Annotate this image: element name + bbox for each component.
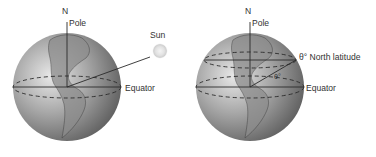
theta-angle-label: θ°: [274, 72, 281, 81]
equator-label-left: Equator: [125, 82, 155, 93]
right-globe: [196, 22, 304, 141]
north-label-right: N: [245, 5, 251, 16]
diagram-canvas: [0, 0, 376, 157]
pole-label-right: Pole: [252, 17, 269, 28]
sun-label: Sun: [150, 29, 165, 40]
equator-label-right: Equator: [306, 82, 336, 93]
latitude-label: θ° North latitude: [299, 51, 360, 62]
north-label-left: N: [62, 5, 68, 16]
pole-label-left: Pole: [69, 17, 86, 28]
sun-icon: [152, 43, 168, 59]
